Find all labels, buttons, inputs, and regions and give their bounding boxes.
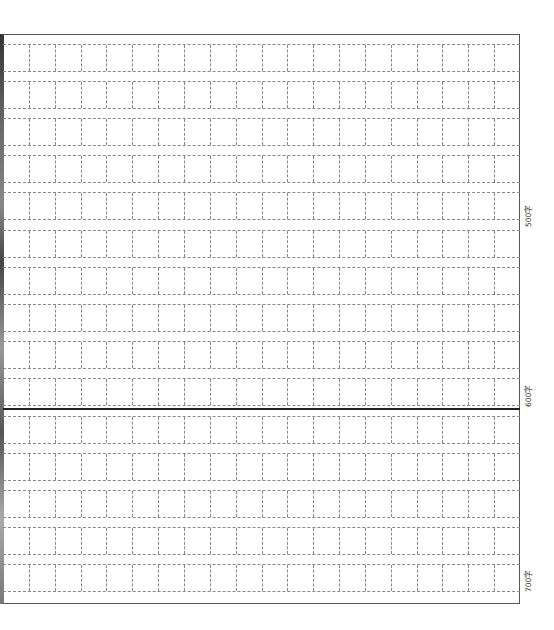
grid-cell-divider (287, 268, 313, 294)
grid-cell-divider (236, 45, 262, 71)
section-divider-line (3, 408, 520, 410)
grid-cell-divider (106, 342, 132, 368)
grid-cell-divider (313, 268, 339, 294)
grid-row (3, 44, 520, 72)
grid-cell-divider (210, 193, 236, 219)
grid-cell-divider (339, 305, 365, 331)
grid-cell-divider (365, 231, 391, 257)
grid-cell-divider (81, 268, 107, 294)
grid-cell-divider (494, 119, 520, 145)
grid-cell-divider (81, 45, 107, 71)
grid-cell-divider (391, 193, 417, 219)
grid-cell-divider (236, 156, 262, 182)
grid-cell-divider (106, 305, 132, 331)
grid-cell-divider (158, 491, 184, 517)
grid-cell-divider (417, 491, 443, 517)
grid-cell-divider (236, 417, 262, 443)
grid-cell-divider (313, 156, 339, 182)
grid-row (3, 81, 520, 109)
grid-cell-divider (236, 342, 262, 368)
grid-cell-divider (287, 417, 313, 443)
grid-cell-divider (81, 156, 107, 182)
grid-cell-divider (417, 305, 443, 331)
grid-cell-divider (468, 82, 494, 108)
grid-cell-divider (158, 379, 184, 405)
grid-cell-divider (106, 82, 132, 108)
grid-cell-divider (468, 491, 494, 517)
grid-cell-divider (29, 268, 55, 294)
grid-cell-divider (55, 305, 81, 331)
grid-cell-divider (262, 491, 288, 517)
grid-cell-divider (132, 491, 158, 517)
grid-cell-divider (55, 417, 81, 443)
grid-cell-divider (29, 193, 55, 219)
grid-cell-divider (494, 342, 520, 368)
grid-cell-divider (391, 379, 417, 405)
grid-cell-divider (29, 82, 55, 108)
grid-cell-divider (365, 491, 391, 517)
grid-cell-divider (262, 119, 288, 145)
grid-cell-divider (313, 565, 339, 591)
grid-cell-divider (365, 45, 391, 71)
grid-cell-divider (442, 342, 468, 368)
grid-cell-divider (391, 156, 417, 182)
word-count-label-700: 700字 (515, 572, 543, 592)
grid-cell-divider (442, 82, 468, 108)
grid-cell-divider (468, 342, 494, 368)
grid-cell-divider (210, 565, 236, 591)
grid-cell-divider (365, 82, 391, 108)
grid-cell-divider (417, 82, 443, 108)
grid-cell-divider (158, 305, 184, 331)
grid-cell-divider (81, 454, 107, 480)
grid-cell-divider (339, 342, 365, 368)
grid-row (3, 267, 520, 295)
grid-cell-divider (391, 528, 417, 554)
grid-cell-divider (29, 528, 55, 554)
grid-cell-divider (184, 417, 210, 443)
grid-row (3, 564, 520, 592)
grid-cell-divider (287, 454, 313, 480)
grid-cell-divider (81, 491, 107, 517)
grid-cell-divider (210, 82, 236, 108)
grid-cell-divider (391, 305, 417, 331)
grid-cell-divider (365, 305, 391, 331)
grid-cell-divider (468, 417, 494, 443)
grid-cell-divider (339, 119, 365, 145)
grid-cell-divider (132, 565, 158, 591)
grid-cell-divider (158, 119, 184, 145)
grid-cell-divider (132, 528, 158, 554)
grid-cell-divider (55, 454, 81, 480)
grid-cell-divider (81, 528, 107, 554)
grid-cell-divider (29, 379, 55, 405)
grid-cell-divider (184, 379, 210, 405)
grid-cell-divider (184, 268, 210, 294)
grid-cell-divider (339, 231, 365, 257)
grid-cell-divider (236, 193, 262, 219)
grid-cell-divider (442, 268, 468, 294)
grid-cell-divider (494, 417, 520, 443)
grid-cell-divider (236, 528, 262, 554)
grid-cell-divider (313, 528, 339, 554)
grid-cell-divider (262, 342, 288, 368)
grid-cell-divider (29, 417, 55, 443)
grid-cell-divider (55, 565, 81, 591)
grid-cell-divider (158, 342, 184, 368)
grid-cell-divider (132, 268, 158, 294)
grid-cell-divider (287, 305, 313, 331)
grid-cell-divider (494, 82, 520, 108)
grid-cell-divider (184, 454, 210, 480)
grid-cell-divider (81, 193, 107, 219)
grid-cell-divider (287, 156, 313, 182)
grid-cell-divider (210, 305, 236, 331)
grid-cell-divider (29, 565, 55, 591)
grid-cell-divider (132, 342, 158, 368)
grid-cell-divider (442, 231, 468, 257)
grid-cell-divider (417, 379, 443, 405)
grid-cell-divider (262, 305, 288, 331)
grid-cell-divider (262, 268, 288, 294)
grid-cell-divider (55, 342, 81, 368)
grid-row (3, 230, 520, 258)
grid-cell-divider (442, 454, 468, 480)
grid-cell-divider (494, 528, 520, 554)
grid-cell-divider (210, 491, 236, 517)
